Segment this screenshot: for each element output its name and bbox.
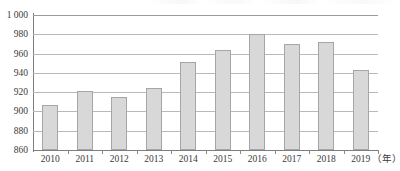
bar <box>353 70 369 150</box>
bar <box>77 91 93 150</box>
y-axis-tick-label: 960 <box>0 49 28 59</box>
bar <box>42 105 58 150</box>
y-axis-tick-label: 1 000 <box>0 10 28 20</box>
x-axis-unit-label: （年） <box>372 153 400 165</box>
plot-area <box>33 15 378 150</box>
x-axis-tick <box>309 150 310 154</box>
bar <box>180 62 196 150</box>
x-axis-tick-label: 2014 <box>171 153 205 165</box>
x-axis-tick <box>102 150 103 154</box>
x-axis-tick-label: 2015 <box>206 153 240 165</box>
bar <box>318 42 334 150</box>
y-axis-tick-label: 920 <box>0 87 28 97</box>
x-axis-tick <box>240 150 241 154</box>
y-axis-tick-label: 860 <box>0 145 28 155</box>
x-axis-tick <box>68 150 69 154</box>
x-axis-tick-label: 2017 <box>275 153 309 165</box>
bar-chart: 1 000980960940920900880860 2010201120122… <box>0 0 400 171</box>
bar <box>111 97 127 150</box>
bar <box>249 34 265 150</box>
gridline <box>33 15 378 16</box>
gridline <box>33 34 378 35</box>
y-axis-tick-label: 940 <box>0 68 28 78</box>
y-axis-tick-label: 980 <box>0 29 28 39</box>
x-axis-tick <box>344 150 345 154</box>
y-axis-tick-label: 880 <box>0 126 28 136</box>
x-axis-tick <box>137 150 138 154</box>
bar <box>284 44 300 150</box>
x-axis-tick-label: 2012 <box>102 153 136 165</box>
x-axis-tick-label: 2013 <box>137 153 171 165</box>
x-axis-tick-label: 2010 <box>33 153 67 165</box>
x-axis-tick-label: 2016 <box>240 153 274 165</box>
x-axis-tick <box>275 150 276 154</box>
x-axis-tick-label: 2018 <box>309 153 343 165</box>
x-axis-tick <box>171 150 172 154</box>
x-axis-tick-label: 2011 <box>68 153 102 165</box>
bar <box>215 50 231 150</box>
y-axis-tick-label: 900 <box>0 106 28 116</box>
x-axis-tick <box>206 150 207 154</box>
top-edge-artifact <box>150 0 396 4</box>
bar <box>146 88 162 150</box>
